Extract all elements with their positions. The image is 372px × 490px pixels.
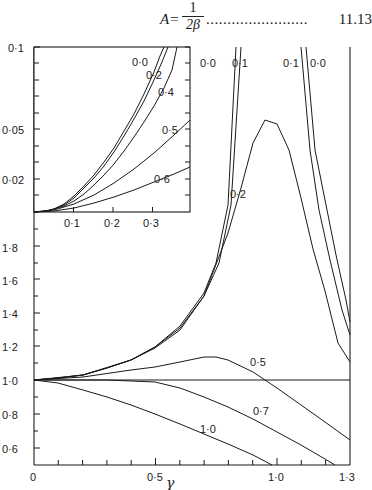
inset-label-0-4: 0·4 [158,86,174,98]
chart-canvas: 1·8 1·6 1·4 1·2 1·0 0·8 0·6 0 0·5 1·0 1·… [0,0,372,490]
y-tick-label-0-6: 0·6 [2,443,18,455]
inset-label-0-0: 0·0 [132,56,148,68]
y-tick-label-1-4: 1·4 [2,308,18,320]
inset-label-0-2: 0·2 [146,69,162,81]
inset-y-tick-label-0-1: 0·1 [8,42,24,54]
curve-0-7 [34,380,335,465]
y-tick-label-1-2: 1·2 [2,341,18,353]
inset-label-0-6: 0·6 [154,173,170,185]
y-tick-label-1-0: 1·0 [2,375,18,387]
inset-x-tick-label-0-1: 0·1 [64,217,80,229]
main-x-ticks [58,458,325,465]
x-tick-label-1-3: 1·3 [339,471,355,483]
label-curve-0-2: 0·2 [230,188,246,200]
curve-0-0-right [306,47,350,322]
x-tick-label-0: 0 [30,471,36,483]
label-curve-0-0-left: 0·0 [200,57,216,69]
inset-x-tick-label-0-2: 0·2 [104,217,120,229]
x-tick-label-1-0: 1·0 [268,471,284,483]
y-tick-label-1-6: 1·6 [2,275,18,287]
label-curve-0-7: 0·7 [253,405,269,417]
label-curve-0-5: 0·5 [250,356,266,368]
main-y-ticks [34,229,40,448]
x-axis-title-gamma: γ [166,475,175,490]
label-curve-0-1-left: 0·1 [232,57,248,69]
label-curve-0-1-right: 0·1 [283,57,299,69]
label-curve-0-0-right: 0·0 [310,57,326,69]
inset-y-tick-label-0-02: 0·02 [2,174,24,186]
inset-x-tick-label-0-3: 0·3 [143,217,159,229]
inset-label-0-5: 0·5 [162,124,178,136]
y-tick-label-1-8: 1·8 [2,242,18,254]
curve-1-0 [34,380,272,465]
label-curve-1-0: 1·0 [200,423,216,435]
x-tick-label-0-5: 0·5 [147,471,163,483]
y-tick-label-0-8: 0·8 [2,409,18,421]
inset-y-tick-label-0-05: 0·05 [2,124,24,136]
curve-0-5 [34,357,350,440]
